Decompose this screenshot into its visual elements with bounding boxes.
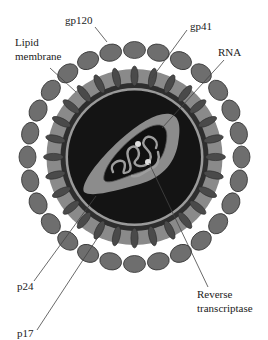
gp120-knob <box>98 42 123 63</box>
label-rt-line1: Reverse <box>197 288 233 300</box>
label-gp120: gp120 <box>65 14 93 26</box>
gp120-knob <box>218 97 243 124</box>
gp120-knob <box>167 241 194 266</box>
gp120-knob <box>233 146 250 168</box>
label-rna: RNA <box>218 46 241 58</box>
label-lipid-line2: membrane <box>15 50 62 62</box>
gp120-knob <box>19 168 40 193</box>
hiv-virion-diagram: gp120 gp41 Lipid membrane RNA p24 p17 Re… <box>0 0 268 340</box>
gp120-knob <box>146 42 171 63</box>
gp120-knob <box>19 121 40 146</box>
gp120-knob <box>228 121 249 146</box>
leader-gp120 <box>95 27 107 42</box>
gp120-knob <box>74 241 101 266</box>
gp41-stalk <box>206 153 226 160</box>
label-p24: p24 <box>17 280 34 292</box>
reverse-transcriptase-dot-2 <box>145 159 151 165</box>
gp120-knob <box>146 251 171 272</box>
gp120-knob <box>26 97 51 124</box>
label-gp41: gp41 <box>190 20 212 32</box>
gp120-knob <box>124 42 146 59</box>
gp120-knob <box>74 48 101 73</box>
gp120-knob <box>218 190 243 217</box>
label-rt-line2: transcriptase <box>197 302 253 314</box>
gp41-stalk <box>131 66 138 86</box>
gp41-stalk <box>131 228 138 248</box>
gp120-knob <box>98 251 123 272</box>
gp41-stalk <box>44 153 64 160</box>
gp120-knob <box>26 190 51 217</box>
reverse-transcriptase-dot-1 <box>135 141 141 147</box>
gp120-knob <box>228 168 249 193</box>
gp120-knob <box>19 146 36 168</box>
label-p17: p17 <box>17 327 34 339</box>
gp120-knob <box>124 256 146 273</box>
label-lipid-line1: Lipid <box>15 36 39 48</box>
